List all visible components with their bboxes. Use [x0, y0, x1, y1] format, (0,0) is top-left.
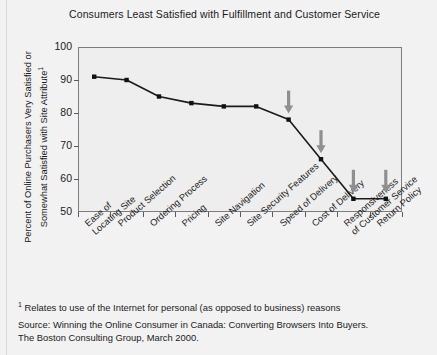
source-line-1: Source: Winning the Online Consumer in C…	[18, 318, 428, 332]
footnotes: 1 Relates to use of the Internet for per…	[18, 298, 428, 345]
chart-figure: Consumers Least Satisfied with Fulfillme…	[0, 0, 437, 355]
data-point-marker	[92, 75, 96, 79]
footnote-text: Relates to use of the Internet for perso…	[25, 302, 341, 313]
footnote-marker: 1	[18, 301, 22, 308]
source-line-2: The Boston Consulting Group, March 2000.	[18, 331, 428, 345]
data-point-marker	[254, 104, 258, 108]
down-arrow-icon	[381, 170, 390, 193]
data-line	[94, 77, 386, 199]
arrow-annotations	[284, 91, 390, 193]
down-arrow-icon	[316, 130, 325, 153]
down-arrow-icon	[284, 91, 293, 114]
data-point-marker	[351, 197, 355, 201]
data-point-marker	[319, 157, 323, 161]
data-point-marker	[189, 101, 193, 105]
data-point-marker	[286, 117, 290, 121]
down-arrow-icon	[349, 170, 358, 193]
data-point-marker	[222, 104, 226, 108]
footnote-1: 1 Relates to use of the Internet for per…	[18, 298, 428, 315]
data-point-marker	[384, 197, 388, 201]
data-point-marker	[157, 94, 161, 98]
data-point-marker	[124, 78, 128, 82]
data-markers	[92, 75, 388, 202]
